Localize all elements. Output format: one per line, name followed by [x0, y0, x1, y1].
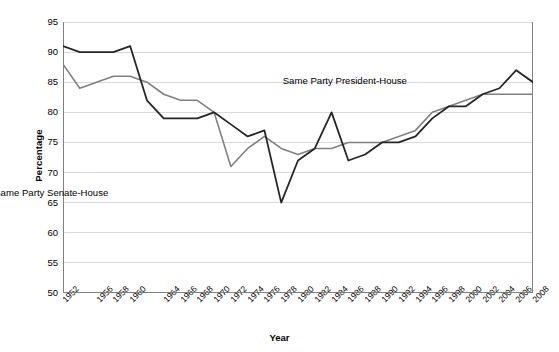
- series-line-president-house[interactable]: [63, 46, 533, 203]
- x-tick-label: 2008: [531, 284, 551, 304]
- series-annotation: Same Party Senate-House: [0, 187, 108, 198]
- series-annotation: Same Party President-House: [283, 75, 407, 86]
- plot-area: [63, 22, 533, 293]
- chart-container: Percentage Year 50556065707580859095 195…: [0, 0, 559, 352]
- chart-svg: [63, 22, 533, 293]
